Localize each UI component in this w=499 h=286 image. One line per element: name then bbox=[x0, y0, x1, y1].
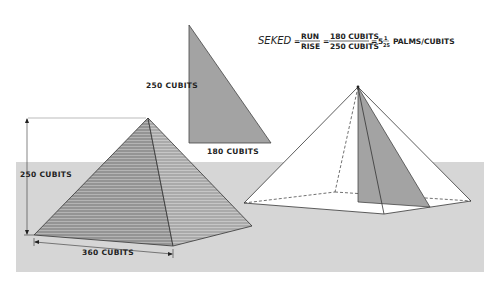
equals-2: = bbox=[323, 37, 329, 46]
seked-frac-num: 1 bbox=[384, 35, 388, 41]
inner-seked-triangle bbox=[358, 87, 430, 207]
triangle-height-label: 250 CUBITS bbox=[146, 81, 198, 90]
rise-label: RISE bbox=[301, 42, 320, 51]
triangle-base-label: 180 CUBITS bbox=[207, 147, 259, 156]
seked-term: SEKED bbox=[258, 35, 292, 46]
seked-diagram: SEKED = RUN RISE = 180 CUBITS 250 CUBITS… bbox=[0, 0, 499, 286]
pyramid-height-label: 250 CUBITS bbox=[20, 170, 72, 179]
pyramid-base-label: 360 CUBITS bbox=[82, 248, 134, 257]
equals-1: = bbox=[294, 37, 300, 46]
equals-3: = bbox=[371, 37, 377, 46]
seked-unit: PALMS/CUBITS bbox=[393, 37, 455, 46]
seked-formula: SEKED = RUN RISE = 180 CUBITS 250 CUBITS… bbox=[258, 32, 455, 51]
seked-frac-den: 25 bbox=[383, 42, 390, 48]
arrow-up-icon bbox=[25, 118, 29, 123]
wireframe-pyramid bbox=[244, 86, 471, 214]
run-label: RUN bbox=[301, 32, 319, 41]
